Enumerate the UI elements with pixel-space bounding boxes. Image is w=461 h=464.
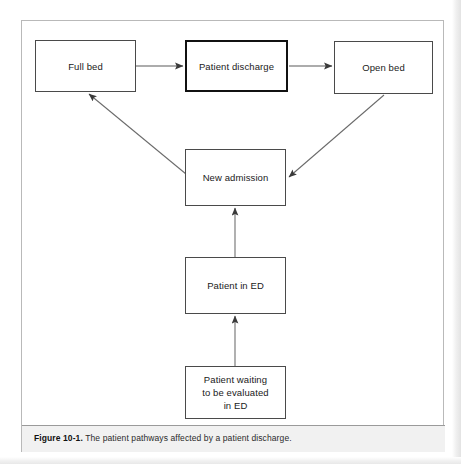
- node-patient-discharge-label: Patient discharge: [199, 60, 274, 73]
- node-patient-in-ed[interactable]: Patient in ED: [185, 257, 286, 314]
- node-full-bed-label: Full bed: [68, 60, 103, 73]
- node-open-bed-label: Open bed: [362, 61, 405, 74]
- node-new-admission-label: New admission: [203, 171, 269, 184]
- edge-new-admission-to-full-bed: [89, 94, 186, 174]
- node-patient-waiting-label: Patient waiting to be evaluated in ED: [202, 373, 268, 412]
- node-open-bed[interactable]: Open bed: [334, 41, 433, 94]
- page-edge-right-shading: [452, 0, 461, 464]
- figure-frame: Full bed Patient discharge Open bed New …: [21, 20, 444, 452]
- page-canvas: Full bed Patient discharge Open bed New …: [0, 0, 461, 464]
- edge-open-bed-to-new-admission: [289, 95, 384, 177]
- node-full-bed[interactable]: Full bed: [35, 40, 136, 92]
- figure-caption-label: Figure 10-1.: [34, 433, 83, 443]
- node-patient-waiting-to-be-evaluated-in-ed[interactable]: Patient waiting to be evaluated in ED: [185, 366, 286, 419]
- node-patient-discharge[interactable]: Patient discharge: [185, 40, 288, 92]
- flowchart-diagram: Full bed Patient discharge Open bed New …: [22, 21, 445, 425]
- node-new-admission[interactable]: New admission: [185, 149, 286, 206]
- figure-caption-body: The patient pathways affected by a patie…: [83, 433, 292, 443]
- node-patient-in-ed-label: Patient in ED: [207, 279, 264, 292]
- figure-caption: Figure 10-1. The patient pathways affect…: [34, 433, 292, 443]
- page-edge-bottom-shading: [0, 457, 461, 464]
- figure-caption-bar: Figure 10-1. The patient pathways affect…: [22, 425, 445, 452]
